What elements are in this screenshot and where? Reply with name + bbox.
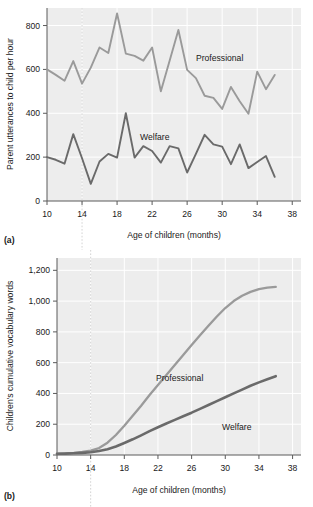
x-tick-label: 38 bbox=[288, 463, 298, 473]
y-tick-label: 0 bbox=[45, 450, 50, 460]
chart-panel-b: 02004006008001,0001,2001014182226303438 … bbox=[0, 250, 313, 507]
series-label-professional-b: Professional bbox=[156, 373, 203, 383]
series-label-welfare-b: Welfare bbox=[222, 422, 252, 432]
y-tick-label: 400 bbox=[36, 388, 51, 398]
y-tick-label: 200 bbox=[26, 152, 41, 162]
y-tick-label: 1,200 bbox=[28, 265, 50, 275]
x-tick-label: 22 bbox=[153, 463, 163, 473]
x-tick-label: 30 bbox=[220, 463, 230, 473]
series-label-welfare-a: Welfare bbox=[140, 132, 170, 142]
y-tick-label: 600 bbox=[26, 64, 41, 74]
chart-panel-a: 02004006008001014182226303438 Profession… bbox=[0, 0, 313, 250]
panel-label-b: (b) bbox=[4, 491, 15, 501]
y-tick-label: 800 bbox=[26, 21, 41, 31]
series-label-professional-a: Professional bbox=[196, 53, 243, 63]
y-tick-label: 1,000 bbox=[28, 296, 50, 306]
x-tick-label: 26 bbox=[182, 209, 192, 219]
y-tick-label: 600 bbox=[36, 358, 51, 368]
y-tick-label: 0 bbox=[35, 196, 40, 206]
x-tick-label: 34 bbox=[252, 209, 262, 219]
parent-utterances-line-chart: 02004006008001014182226303438 Profession… bbox=[0, 0, 313, 250]
x-tick-label: 10 bbox=[52, 463, 62, 473]
x-tick-label: 22 bbox=[147, 209, 157, 219]
x-tick-label: 26 bbox=[187, 463, 197, 473]
x-axis-title-a: Age of children (months) bbox=[127, 230, 221, 240]
x-axis-title-b: Age of children (months) bbox=[132, 485, 226, 495]
panel-label-a: (a) bbox=[4, 235, 15, 245]
x-tick-label: 34 bbox=[254, 463, 264, 473]
x-tick-label: 38 bbox=[287, 209, 297, 219]
y-tick-label: 800 bbox=[36, 327, 51, 337]
x-tick-label: 18 bbox=[112, 209, 122, 219]
x-tick-label: 18 bbox=[120, 463, 130, 473]
x-tick-label: 10 bbox=[42, 209, 52, 219]
y-axis-title-b: Children's cumulative vocabulary words bbox=[5, 281, 15, 432]
y-tick-label: 400 bbox=[26, 108, 41, 118]
x-tick-label: 14 bbox=[86, 463, 96, 473]
x-tick-label: 30 bbox=[217, 209, 227, 219]
cumulative-vocabulary-line-chart: 02004006008001,0001,2001014182226303438 … bbox=[0, 250, 313, 507]
plot-background-a bbox=[47, 8, 301, 201]
x-tick-label: 14 bbox=[77, 209, 87, 219]
y-axis-title-a: Parent utterances to child per hour bbox=[5, 38, 15, 170]
y-tick-label: 200 bbox=[36, 419, 51, 429]
